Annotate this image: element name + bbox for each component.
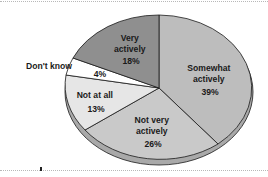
label-dont-know-pct: 4%: [94, 69, 107, 79]
label-dont-know: Don't know: [26, 61, 72, 71]
pie-chart: Somewhat actively 39% Not very actively …: [0, 0, 268, 177]
marker-tick: [40, 167, 42, 171]
